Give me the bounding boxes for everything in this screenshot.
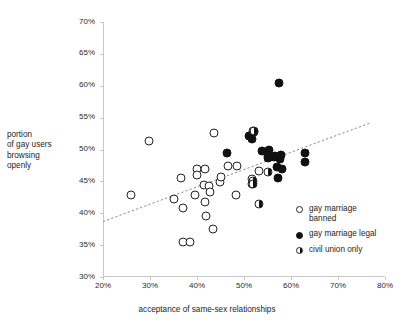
- legend-label-legal: gay marriage legal: [309, 229, 376, 238]
- data-point-legal: [223, 148, 232, 157]
- x-tick: [338, 277, 339, 280]
- data-point-legal: [300, 148, 309, 157]
- y-tick-label: 70%: [79, 17, 95, 26]
- legend-item-banned: gay marriage banned: [296, 204, 412, 224]
- data-point-civil: [254, 200, 263, 209]
- y-axis-label: portion of gay users browsing openly: [7, 130, 85, 172]
- x-tick: [291, 277, 292, 280]
- data-point-civil: [264, 167, 273, 176]
- data-point-banned: [169, 194, 178, 203]
- x-axis-label: acceptance of same-sex relationships: [0, 305, 414, 314]
- x-tick: [103, 277, 104, 280]
- data-point-banned: [144, 137, 153, 146]
- y-axis-label-line-1: portion: [7, 130, 85, 140]
- x-tick-label: 30%: [142, 281, 158, 290]
- data-point-banned: [208, 224, 217, 233]
- data-point-banned: [177, 173, 186, 182]
- y-tick-label: 55%: [79, 112, 95, 121]
- y-tick-label: 50%: [79, 144, 95, 153]
- legend-label-banned-line-2: banned: [309, 214, 336, 223]
- data-point-banned: [178, 204, 187, 213]
- data-point-banned: [206, 187, 215, 196]
- data-point-legal: [277, 151, 286, 160]
- x-tick-label: 60%: [283, 281, 299, 290]
- data-point-banned: [217, 172, 226, 181]
- data-point-banned: [186, 237, 195, 246]
- y-tick-label: 40%: [79, 208, 95, 217]
- scatter-chart-figure: portion of gay users browsing openly 30%…: [0, 0, 414, 328]
- y-tick-label: 60%: [79, 80, 95, 89]
- x-tick: [150, 277, 151, 280]
- legend-label-civil: civil union only: [309, 245, 362, 254]
- x-tick-label: 40%: [189, 281, 205, 290]
- x-tick-label: 50%: [236, 281, 252, 290]
- y-tick-label: 65%: [79, 48, 95, 57]
- data-point-banned: [202, 211, 211, 220]
- data-point-banned: [126, 191, 135, 200]
- filled-circle-icon: [296, 232, 303, 239]
- x-tick-label: 20%: [95, 281, 111, 290]
- data-point-banned: [200, 164, 209, 173]
- data-point-legal: [273, 173, 282, 182]
- legend: gay marriage banned gay marriage legal c…: [296, 204, 412, 257]
- y-axis-label-line-2: of gay users: [7, 140, 85, 150]
- data-point-legal: [275, 79, 284, 88]
- legend-item-civil: civil union only: [296, 245, 412, 255]
- data-point-legal: [277, 164, 286, 173]
- x-tick: [197, 277, 198, 280]
- legend-item-legal: gay marriage legal: [296, 229, 412, 239]
- x-tick: [385, 277, 386, 280]
- x-tick-label: 80%: [377, 281, 393, 290]
- y-tick-label: 30%: [79, 272, 95, 281]
- x-tick: [244, 277, 245, 280]
- y-axis-label-line-3: browsing: [7, 151, 85, 161]
- data-point-banned: [233, 162, 242, 171]
- half-filled-circle-icon: [296, 247, 303, 254]
- x-tick-label: 70%: [330, 281, 346, 290]
- data-point-banned: [224, 162, 233, 171]
- data-point-banned: [209, 128, 218, 137]
- data-point-banned: [232, 190, 241, 199]
- y-tick-label: 35%: [79, 240, 95, 249]
- data-point-banned: [254, 167, 263, 176]
- data-point-legal: [301, 157, 310, 166]
- data-point-banned: [191, 190, 200, 199]
- data-point-civil: [249, 127, 258, 136]
- legend-label-banned-line-1: gay marriage: [309, 204, 357, 213]
- y-axis-label-line-4: openly: [7, 161, 85, 171]
- data-point-banned: [200, 197, 209, 206]
- open-circle-icon: [296, 206, 303, 213]
- data-point-civil: [249, 179, 258, 188]
- y-tick-label: 45%: [79, 176, 95, 185]
